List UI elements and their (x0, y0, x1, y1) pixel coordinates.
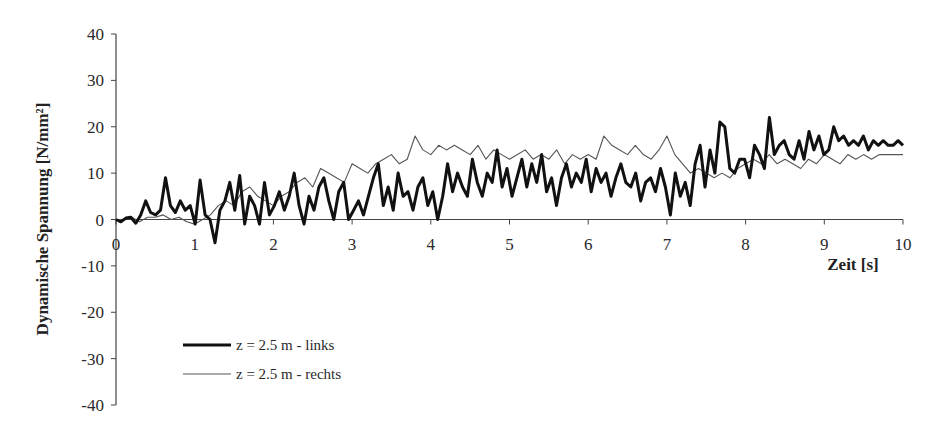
x-axis-title: Zeit [s] (827, 255, 878, 274)
x-tick-label: 9 (820, 235, 829, 254)
x-axis-ticks: 012345678910 (112, 220, 912, 254)
y-tick-label: 40 (87, 25, 104, 44)
y-tick-label: 30 (87, 71, 104, 90)
x-tick-label: 8 (741, 235, 750, 254)
line-chart: Dynamische Spannung [N/mm²] 403020100-10… (0, 0, 942, 439)
x-tick-label: 5 (505, 235, 514, 254)
legend: z = 2.5 m - links z = 2.5 m - rechts (183, 337, 341, 382)
y-tick-label: 0 (96, 211, 105, 230)
x-tick-label: 10 (895, 235, 912, 254)
y-tick-label: -10 (81, 257, 104, 276)
x-tick-label: 7 (663, 235, 672, 254)
legend-label-rechts: z = 2.5 m - rechts (236, 366, 341, 382)
y-axis-title: Dynamische Spannung [N/mm²] (33, 103, 52, 336)
y-tick-label: 20 (87, 118, 104, 137)
x-tick-label: 6 (584, 235, 593, 254)
legend-label-links: z = 2.5 m - links (236, 337, 335, 353)
y-tick-label: 10 (87, 164, 104, 183)
x-tick-label: 0 (112, 235, 121, 254)
y-tick-label: -30 (81, 350, 104, 369)
x-tick-label: 4 (427, 235, 436, 254)
y-tick-label: -20 (81, 303, 104, 322)
x-tick-label: 1 (190, 235, 199, 254)
y-axis-ticks: 403020100-10-20-30-40 (81, 25, 116, 415)
x-tick-label: 2 (269, 235, 278, 254)
x-tick-label: 3 (348, 235, 357, 254)
y-tick-label: -40 (81, 396, 104, 415)
